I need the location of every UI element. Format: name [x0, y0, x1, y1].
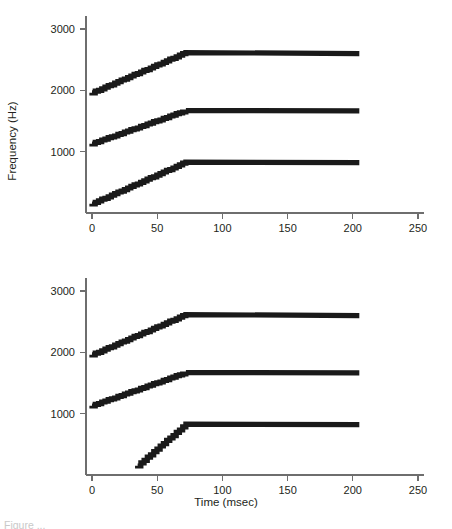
x-tick-label: 250	[409, 222, 427, 234]
chart-panel-top: 050100150200250100020003000	[0, 0, 452, 248]
x-tick-label: 200	[344, 222, 362, 234]
formant-trace-f1	[138, 424, 360, 466]
chart-canvas-bottom: 050100150200250100020003000	[0, 262, 452, 510]
y-tick-label: 2000	[51, 346, 75, 358]
x-tick-label: 250	[409, 484, 427, 496]
chart-panel-bottom: 050100150200250100020003000	[0, 262, 452, 510]
formant-trace-f3	[92, 315, 359, 355]
x-tick-label: 0	[89, 222, 95, 234]
chart-canvas-top: 050100150200250100020003000	[0, 0, 452, 248]
x-tick-label: 100	[213, 222, 231, 234]
y-tick-label: 2000	[51, 84, 75, 96]
figure-caption-partial: Figure ...	[4, 519, 448, 529]
x-axis-title: Time (msec)	[0, 496, 452, 508]
y-tick-label: 1000	[51, 146, 75, 158]
formant-trace-f3	[92, 53, 359, 93]
formant-trace-f1	[92, 162, 359, 204]
x-tick-label: 100	[213, 484, 231, 496]
x-tick-label: 50	[151, 222, 163, 234]
x-tick-label: 150	[278, 484, 296, 496]
y-tick-label: 3000	[51, 285, 75, 297]
x-tick-label: 200	[344, 484, 362, 496]
formant-trace-f2	[92, 110, 359, 144]
formant-trace-f2	[92, 372, 359, 406]
x-tick-label: 50	[151, 484, 163, 496]
x-tick-label: 150	[278, 222, 296, 234]
x-tick-label: 0	[89, 484, 95, 496]
y-tick-label: 1000	[51, 408, 75, 420]
y-tick-label: 3000	[51, 23, 75, 35]
